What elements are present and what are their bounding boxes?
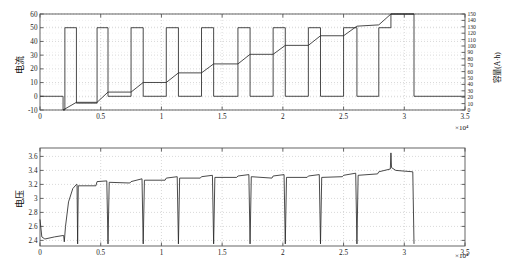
y-axis-label-voltage: 电压 xyxy=(13,179,26,219)
svg-text:120: 120 xyxy=(468,30,477,36)
svg-text:1.5: 1.5 xyxy=(218,249,227,257)
svg-text:3: 3 xyxy=(34,195,38,203)
y-axis-label-current: 电流 xyxy=(13,45,26,85)
svg-text:-10: -10 xyxy=(28,107,38,115)
svg-text:10: 10 xyxy=(468,101,474,107)
svg-text:70: 70 xyxy=(468,62,474,68)
y-axis-label-capacity: 容量(A·h) xyxy=(491,42,502,94)
svg-text:3.6: 3.6 xyxy=(29,153,38,161)
svg-text:2.6: 2.6 xyxy=(29,223,38,231)
svg-text:0.5: 0.5 xyxy=(96,113,105,121)
svg-text:30: 30 xyxy=(30,52,38,60)
svg-text:10: 10 xyxy=(30,79,38,87)
svg-text:0.5: 0.5 xyxy=(96,249,105,257)
svg-text:3.2: 3.2 xyxy=(29,181,38,189)
svg-text:40: 40 xyxy=(468,81,474,87)
svg-text:130: 130 xyxy=(468,24,477,30)
panel-current: 电流 容量(A·h) ×10⁴ 00.511.522.533.5-1001020… xyxy=(0,0,515,140)
svg-text:2.5: 2.5 xyxy=(339,113,348,121)
svg-text:2.8: 2.8 xyxy=(29,209,38,217)
svg-text:110: 110 xyxy=(468,37,476,43)
svg-text:150: 150 xyxy=(468,11,477,17)
svg-text:0: 0 xyxy=(468,107,471,113)
svg-text:0: 0 xyxy=(34,93,38,101)
svg-text:60: 60 xyxy=(30,11,38,19)
svg-text:2.4: 2.4 xyxy=(29,237,38,245)
svg-text:0: 0 xyxy=(38,249,42,257)
svg-text:3.4: 3.4 xyxy=(29,167,38,175)
svg-text:2: 2 xyxy=(281,249,285,257)
panel-voltage: 电压 ×10⁴ 00.511.522.533.52.42.62.833.23.4… xyxy=(0,140,515,268)
svg-text:1: 1 xyxy=(160,113,164,121)
svg-text:1.5: 1.5 xyxy=(218,113,227,121)
svg-text:30: 30 xyxy=(468,88,474,94)
voltage-chart: 00.511.522.533.52.42.62.833.23.43.6 xyxy=(0,140,515,268)
svg-text:90: 90 xyxy=(468,49,474,55)
current-chart: 00.511.522.533.5-10010203040506001020304… xyxy=(0,0,515,140)
x-axis-exponent-top: ×10⁴ xyxy=(455,124,468,132)
svg-text:1: 1 xyxy=(160,249,164,257)
svg-text:3: 3 xyxy=(402,113,406,121)
svg-text:20: 20 xyxy=(30,65,38,73)
svg-text:100: 100 xyxy=(468,43,477,49)
svg-text:80: 80 xyxy=(468,56,474,62)
svg-text:2: 2 xyxy=(281,113,285,121)
svg-text:3.5: 3.5 xyxy=(461,113,470,121)
svg-text:3: 3 xyxy=(402,249,406,257)
svg-text:50: 50 xyxy=(30,24,38,32)
figure-container: 电流 容量(A·h) ×10⁴ 00.511.522.533.5-1001020… xyxy=(0,0,515,268)
svg-text:50: 50 xyxy=(468,75,474,81)
svg-text:0: 0 xyxy=(38,113,42,121)
svg-text:2.5: 2.5 xyxy=(339,249,348,257)
svg-text:60: 60 xyxy=(468,69,474,75)
x-axis-exponent-bottom: ×10⁴ xyxy=(455,252,468,260)
svg-text:140: 140 xyxy=(468,17,477,23)
svg-text:40: 40 xyxy=(30,38,38,46)
svg-text:20: 20 xyxy=(468,94,474,100)
